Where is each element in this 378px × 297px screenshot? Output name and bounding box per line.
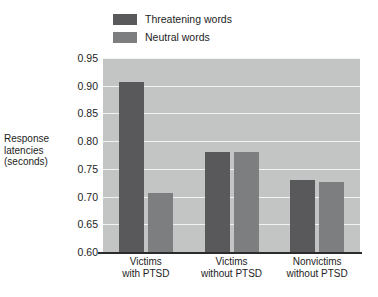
x-category-label-line: Nonvictims (267, 256, 367, 268)
legend-item-neutral-words: Neutral words (113, 30, 313, 45)
x-category-label-line: without PTSD (267, 268, 367, 280)
y-axis-tick-labels: 0.950.900.850.800.750.700.650.60 (58, 58, 98, 252)
y-tick-label: 0.60 (62, 247, 98, 258)
chart-legend: Threatening words Neutral words (113, 12, 313, 48)
y-tick-label: 0.70 (62, 192, 98, 203)
bar (234, 152, 259, 252)
bar (319, 182, 344, 252)
legend-label-threatening-words: Threatening words (145, 14, 232, 25)
bar (148, 193, 173, 252)
legend-label-neutral-words: Neutral words (145, 32, 210, 43)
bar (290, 180, 315, 252)
legend-item-threatening-words: Threatening words (113, 12, 313, 27)
y-tick-label: 0.80 (62, 136, 98, 147)
bar (119, 82, 144, 252)
y-tick-label: 0.75 (62, 164, 98, 175)
y-tick-label: 0.85 (62, 108, 98, 119)
y-tick-label: 0.90 (62, 81, 98, 92)
gridline (103, 58, 360, 59)
x-axis-category-labels: Victimswith PTSDVictimswithout PTSDNonvi… (103, 256, 360, 290)
x-category-label: Nonvictimswithout PTSD (267, 256, 367, 279)
y-tick-label: 0.65 (62, 219, 98, 230)
bar (205, 152, 230, 252)
legend-swatch-threatening-words (113, 14, 137, 25)
x-axis-line (98, 252, 362, 254)
bar-chart-figure: Threatening words Neutral words Response… (0, 0, 378, 297)
y-tick-label: 0.95 (62, 53, 98, 64)
legend-swatch-neutral-words (113, 32, 137, 43)
plot-area (103, 58, 360, 252)
